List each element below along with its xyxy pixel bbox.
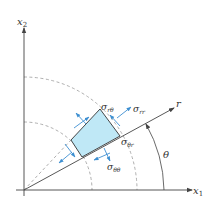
x2-label: x2: [17, 16, 27, 29]
sigma-rr-label: σrr: [133, 104, 146, 115]
arrow-left-normal: [59, 152, 72, 163]
sigma-thetatheta-label: σθθ: [107, 162, 121, 173]
arrow-sigma-rr: [117, 107, 131, 118]
theta-label: θ: [163, 149, 169, 160]
r-label: r: [176, 98, 182, 109]
x1-label: x1: [193, 185, 203, 198]
stress-element-diagram: x2 x1 r θ σrθ σrr σθr σθθ: [0, 0, 217, 206]
theta-arc: [146, 124, 164, 190]
sigma-thetar-label: σθr: [121, 137, 135, 148]
arrow-left-shear: [65, 144, 75, 157]
sigma-rtheta-label: σrθ: [101, 102, 114, 113]
dashed-radial-line: [24, 140, 71, 190]
